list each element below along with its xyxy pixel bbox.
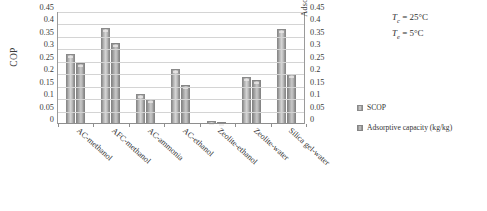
legend-item-scop: SCOP bbox=[357, 103, 452, 112]
gridline bbox=[58, 37, 304, 38]
axis-tick-label: 0.2 bbox=[310, 66, 320, 74]
axis-tick-label: 0.3 bbox=[44, 41, 54, 49]
bar-scop bbox=[242, 77, 251, 124]
bar-adsorptive-capacity bbox=[181, 85, 190, 124]
annotation-value-te: = 5°C bbox=[400, 28, 424, 38]
bar-highlight bbox=[173, 71, 178, 73]
axis-tick-label: 0.15 bbox=[310, 79, 325, 87]
plot-area bbox=[57, 12, 305, 124]
bar-highlight bbox=[138, 96, 143, 98]
legend-swatch-scop bbox=[357, 105, 363, 111]
bar-group bbox=[66, 12, 85, 124]
chart-annotation: Tc = 25°C Te = 5°C bbox=[392, 11, 428, 43]
axis-tick-label: 0.05 bbox=[310, 104, 325, 112]
bar-highlight bbox=[254, 82, 259, 84]
x-axis-tick bbox=[306, 124, 307, 127]
bar-highlight bbox=[148, 101, 153, 103]
annotation-condenser-temp: Tc = 25°C bbox=[392, 11, 428, 27]
bar-scop bbox=[101, 28, 110, 124]
axis-tick-label: 0.25 bbox=[39, 54, 54, 62]
axis-tick-label: 0.4 bbox=[310, 16, 320, 24]
bar-highlight bbox=[113, 45, 118, 47]
axis-tick-label: 0 bbox=[310, 116, 314, 124]
legend-label-scop: SCOP bbox=[367, 103, 386, 112]
axis-tick-label: 0 bbox=[50, 116, 54, 124]
bar-groups bbox=[58, 12, 304, 124]
gridline bbox=[58, 87, 304, 88]
axis-tick-label: 0.45 bbox=[310, 4, 325, 12]
gridline bbox=[58, 12, 304, 13]
y-axis-right-title: Adsorptive capacity (kg/kg) bbox=[300, 0, 309, 28]
legend-swatch-adsorptive-capacity bbox=[357, 125, 363, 131]
gridline bbox=[58, 24, 304, 25]
bar-highlight bbox=[289, 76, 294, 78]
bar-highlight bbox=[78, 65, 83, 67]
axis-tick-label: 0.2 bbox=[44, 66, 54, 74]
axis-tick-label: 0.3 bbox=[310, 41, 320, 49]
gridline bbox=[58, 112, 304, 113]
legend-label-adsorptive-capacity: Adsorptive capacity (kg/kg) bbox=[367, 123, 452, 132]
bar-highlight bbox=[183, 87, 188, 89]
bar-scop bbox=[66, 54, 75, 124]
bar-highlight bbox=[279, 31, 284, 33]
axis-tick-label: 0.35 bbox=[310, 29, 325, 37]
annotation-evaporator-temp: Te = 5°C bbox=[392, 27, 428, 43]
bar-scop bbox=[171, 69, 180, 124]
bar-group bbox=[171, 12, 190, 124]
legend-item-adsorptive-capacity: Adsorptive capacity (kg/kg) bbox=[357, 123, 452, 132]
annotation-value-tc: = 25°C bbox=[400, 12, 428, 22]
axis-tick-label: 0.45 bbox=[39, 4, 54, 12]
axis-tick-label: 0.25 bbox=[310, 54, 325, 62]
x-axis-line bbox=[58, 123, 304, 124]
bar-group bbox=[101, 12, 120, 124]
bar-scop bbox=[277, 29, 286, 124]
bar-group bbox=[136, 12, 155, 124]
axis-tick-label: 0.15 bbox=[39, 79, 54, 87]
bar-highlight bbox=[244, 79, 249, 81]
bar-adsorptive-capacity bbox=[76, 63, 85, 124]
chart-figure: COP 00.050.10.150.20.250.30.350.40.45 00… bbox=[0, 0, 487, 211]
y-axis-right-ticks: 00.050.10.150.20.250.30.350.40.45 bbox=[310, 8, 340, 126]
x-axis-category-label: Silica gel-water bbox=[287, 126, 331, 167]
y-axis-left-ticks: 00.050.10.150.20.250.30.350.40.45 bbox=[24, 8, 54, 126]
axis-tick-label: 0.1 bbox=[310, 91, 320, 99]
bar-group bbox=[207, 12, 226, 124]
axis-tick-label: 0.4 bbox=[44, 16, 54, 24]
x-axis-category-label: AC-ethanol bbox=[181, 126, 215, 158]
axis-tick-label: 0.35 bbox=[39, 29, 54, 37]
bar-group bbox=[277, 12, 296, 124]
bar-highlight bbox=[103, 30, 108, 32]
axis-tick-label: 0.1 bbox=[44, 91, 54, 99]
y-axis-left-title: COP bbox=[9, 22, 19, 92]
gridline bbox=[58, 99, 304, 100]
x-axis-category-labels: AC-methanolAFC-methanolAC-ammoniaAC-etha… bbox=[57, 126, 305, 206]
bar-group bbox=[242, 12, 261, 124]
gridline bbox=[58, 49, 304, 50]
x-axis-category-label: AC-methanol bbox=[75, 126, 114, 163]
bar-highlight bbox=[68, 56, 73, 58]
x-axis-category-label: Zeolite-water bbox=[252, 126, 291, 162]
chart-legend: SCOP Adsorptive capacity (kg/kg) bbox=[357, 103, 452, 143]
gridline bbox=[58, 74, 304, 75]
gridline bbox=[58, 62, 304, 63]
axis-tick-label: 0.05 bbox=[39, 104, 54, 112]
